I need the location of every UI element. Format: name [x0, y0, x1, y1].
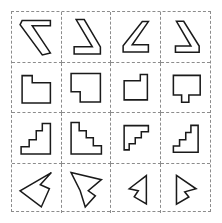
grid-cell-r4c1 [12, 164, 62, 214]
grid-cell-r1c4 [161, 12, 211, 63]
grid-cell-r3c2 [62, 113, 112, 164]
shape-bent-arrow-seven-large [20, 21, 50, 55]
shape-svg-notched-rectangle-l-shape [12, 63, 61, 113]
shape-svg-notched-rectangle-tab-bottom [161, 63, 211, 113]
shape-svg-bent-arrow-seven-rotated-small [111, 12, 160, 62]
shape-bent-arrow-seven-mirrored-large [74, 20, 100, 54]
grid-cell-r1c1 [12, 12, 62, 63]
grid-cell-r2c1 [12, 63, 62, 114]
shape-svg-bent-arrow-seven-large [12, 12, 61, 62]
grid-cell-r2c2 [62, 63, 112, 114]
grid-cell-r1c3 [111, 12, 161, 63]
shape-grid [11, 11, 211, 212]
shape-staircase-four-steps-left [71, 123, 101, 154]
shape-svg-notched-rectangle-small-step [111, 63, 160, 113]
shape-staircase-three-steps-right [21, 124, 50, 154]
shape-svg-bent-arrow-seven-mirrored-small [161, 12, 211, 62]
shape-bent-arrow-seven-mirrored-small [175, 21, 199, 52]
shape-notched-rectangle-l-shape [22, 75, 50, 102]
shape-svg-notched-rectangle-flag-shape [62, 63, 111, 113]
shape-notched-rectangle-small-step [124, 74, 147, 99]
grid-cell-r4c3 [111, 164, 161, 214]
shape-staircase-three-steps-small-right [173, 125, 198, 152]
shape-svg-notched-triangle-arrow-left [12, 164, 61, 214]
grid-cell-r3c3 [111, 113, 161, 164]
shape-notched-rectangle-flag-shape [71, 73, 100, 101]
grid-cell-r2c3 [111, 63, 161, 114]
grid-cell-r3c4 [161, 113, 211, 164]
shape-svg-notched-triangle-arrow-right-small [161, 164, 211, 214]
grid-cell-r4c4 [161, 164, 211, 214]
shape-svg-staircase-three-steps-small-right [161, 113, 211, 163]
grid-cell-r2c4 [161, 63, 211, 114]
shape-notched-triangle-arrow-right-small [176, 175, 196, 204]
shape-svg-notched-triangle-arrow-left-small [111, 164, 160, 214]
shape-notched-triangle-arrow-left [20, 172, 51, 206]
shape-notched-rectangle-tab-bottom [173, 75, 200, 102]
shape-bent-arrow-seven-rotated-small [123, 22, 148, 52]
shape-svg-notched-triangle-arrow-right [62, 164, 111, 214]
figure-root [0, 0, 222, 223]
shape-svg-staircase-three-steps-small-left [111, 113, 160, 163]
shape-staircase-three-steps-small-left [124, 126, 148, 150]
shape-svg-staircase-four-steps-left [62, 113, 111, 163]
shape-notched-triangle-arrow-left-small [129, 175, 146, 203]
grid-cell-r3c1 [12, 113, 62, 164]
shape-notched-triangle-arrow-right [71, 172, 101, 206]
grid-cell-r4c2 [62, 164, 112, 214]
shape-svg-bent-arrow-seven-mirrored-large [62, 12, 111, 62]
shape-svg-staircase-three-steps-right [12, 113, 61, 163]
grid-cell-r1c2 [62, 12, 112, 63]
